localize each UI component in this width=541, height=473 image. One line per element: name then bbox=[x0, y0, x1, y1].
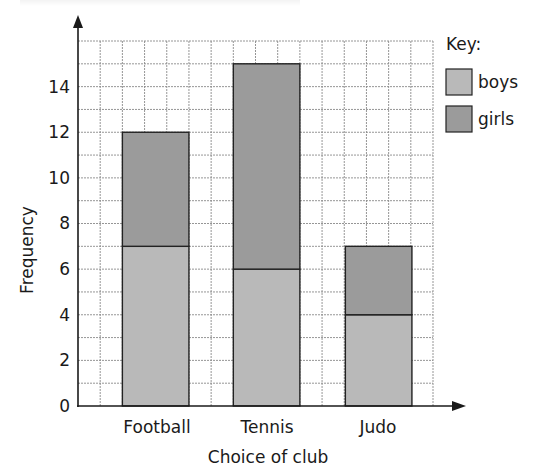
bar-tennis-boys bbox=[233, 269, 300, 406]
y-tick: 4 bbox=[59, 305, 70, 325]
x-axis-arrow-icon bbox=[452, 401, 466, 411]
x-axis-label: Choice of club bbox=[208, 447, 328, 467]
legend-swatch-boys bbox=[446, 69, 472, 95]
bar-football-girls bbox=[122, 132, 189, 246]
y-tick: 8 bbox=[59, 213, 70, 233]
bars bbox=[122, 64, 412, 406]
bar-judo-girls bbox=[345, 246, 412, 314]
bar-tennis-girls bbox=[233, 64, 300, 269]
bar-judo-boys bbox=[345, 315, 412, 406]
bar-football-boys bbox=[122, 246, 189, 406]
y-tick: 10 bbox=[48, 168, 70, 188]
y-tick: 2 bbox=[59, 350, 70, 370]
y-tick: 14 bbox=[48, 77, 70, 97]
legend-title: Key: bbox=[446, 34, 481, 54]
y-tick: 6 bbox=[59, 259, 70, 279]
x-category-label: Judo bbox=[359, 417, 397, 437]
stacked-bar-chart: 0 2 4 6 8 10 12 14 Frequency Football Te… bbox=[0, 0, 541, 473]
legend: Key: boys girls bbox=[446, 34, 518, 132]
y-tick: 0 bbox=[59, 396, 70, 416]
y-axis-arrow-icon bbox=[73, 15, 83, 28]
x-category-label: Tennis bbox=[239, 417, 293, 437]
legend-label-girls: girls bbox=[478, 109, 514, 129]
x-category-label: Football bbox=[123, 417, 190, 437]
y-tick-labels: 0 2 4 6 8 10 12 14 bbox=[48, 77, 70, 416]
legend-swatch-girls bbox=[446, 106, 472, 132]
y-axis-label: Frequency bbox=[17, 206, 37, 294]
y-tick: 12 bbox=[48, 122, 70, 142]
legend-label-boys: boys bbox=[478, 72, 518, 92]
